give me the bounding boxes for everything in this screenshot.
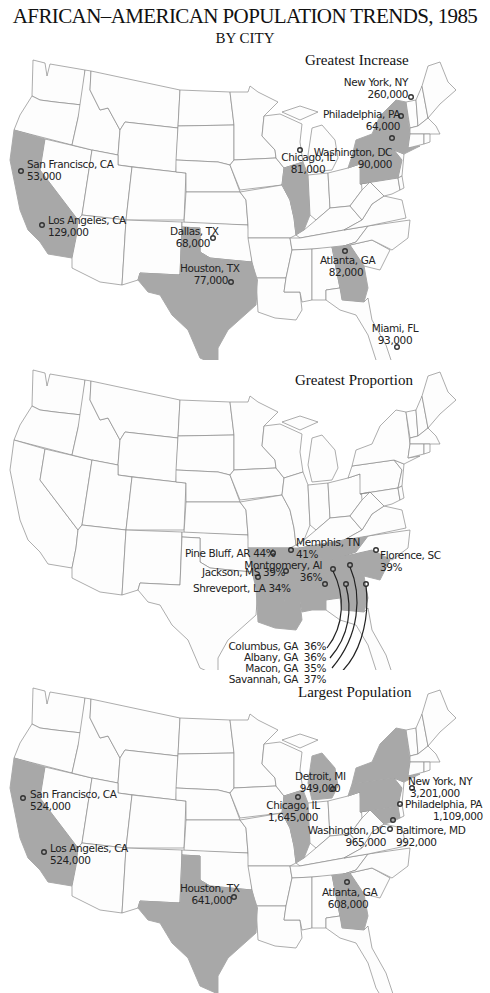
city-label: Jackson, MS 39% [202, 566, 285, 578]
panel-title: Greatest Proportion [295, 372, 413, 389]
city-label: Detroit, MI949,000 [295, 770, 345, 794]
map-largest-population: Largest Population San Francisco, CA524,… [0, 658, 490, 993]
us-map-increase [0, 30, 490, 360]
city-label: Memphis, TN41% [296, 536, 360, 560]
city-label: San Francisco, CA53,000 [27, 158, 114, 182]
map-title: AFRICAN–AMERICAN POPULATION TRENDS, 1985 [0, 4, 490, 29]
city-label: Los Angeles, CA129,000 [48, 214, 126, 238]
city-label: Dallas, TX68,000 [170, 225, 210, 249]
city-label: Los Angeles, CA524,000 [50, 842, 128, 866]
city-label: Baltimore, MD992,000 [396, 824, 465, 848]
city-label: Houston, TX77,000 [180, 262, 228, 286]
city-label: Shreveport, LA 34% [193, 582, 291, 594]
panel-title: Greatest Increase [305, 52, 409, 69]
city-label: Philadelphia, PA1,109,000 [405, 798, 483, 822]
map-greatest-increase: Greatest Increase San Francisco, CA53,00… [0, 30, 490, 360]
city-label: Atlanta, GA608,000 [322, 886, 374, 910]
city-label: Washington, DC90,000 [300, 146, 392, 170]
us-map-proportion [0, 340, 490, 670]
city-label: Pine Bluff, AR 44% [185, 547, 275, 559]
city-label: San Francisco, CA524,000 [30, 788, 117, 812]
city-label: Washington, DC965,000 [300, 824, 386, 848]
map-greatest-proportion: Greatest Proportion Pine Bluff, AR 44% M… [0, 340, 490, 670]
city-label: Philadelphia, PA64,000 [320, 108, 400, 132]
city-label: Atlanta, GA82,000 [320, 254, 372, 278]
city-marker [409, 95, 414, 100]
city-label: Florence, SC39% [380, 549, 441, 573]
city-label: Houston, TX641,000 [180, 882, 232, 906]
city-label: New York, NY260,000 [334, 76, 408, 100]
city-label: Chicago, IL1,645,000 [262, 799, 324, 823]
city-label: New York, NY3,201,000 [408, 775, 472, 799]
panel-title: Largest Population [298, 684, 411, 701]
